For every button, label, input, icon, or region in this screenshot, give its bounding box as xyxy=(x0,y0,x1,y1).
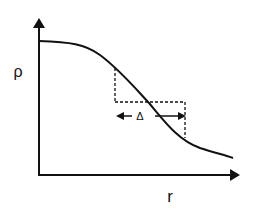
density-curve xyxy=(39,41,233,158)
delta-label: Δ xyxy=(136,110,144,122)
density-profile-diagram: Δ ρ r xyxy=(0,0,256,214)
x-axis-label: r xyxy=(167,187,173,206)
y-axis-label: ρ xyxy=(13,63,22,80)
